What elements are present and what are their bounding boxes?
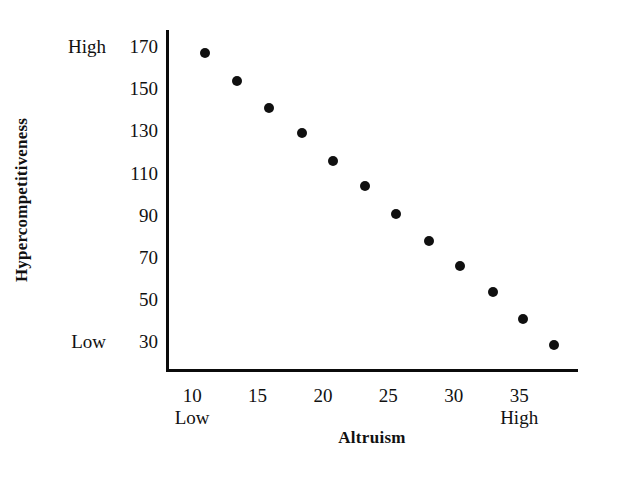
y-axis-anchor-label: Low bbox=[46, 332, 106, 351]
data-point bbox=[391, 209, 401, 219]
x-axis-tick-label: 20 bbox=[293, 386, 353, 406]
data-point bbox=[328, 156, 338, 166]
y-axis-tick-label: 70 bbox=[112, 248, 158, 267]
y-axis-line bbox=[166, 30, 169, 372]
x-axis-line bbox=[166, 369, 578, 372]
y-axis-tick-label: 110 bbox=[112, 164, 158, 183]
y-axis-title-text: Hypercompetitiveness bbox=[12, 118, 32, 282]
y-axis-tick-label: 170 bbox=[112, 37, 158, 56]
data-point bbox=[200, 48, 210, 58]
y-axis-tick-label: 90 bbox=[112, 206, 158, 225]
y-axis-tick-label: 130 bbox=[112, 121, 158, 140]
plot-area bbox=[166, 30, 578, 372]
x-axis-tick-label: 25 bbox=[358, 386, 418, 406]
x-axis-tick-label: 30 bbox=[424, 386, 484, 406]
y-axis-tick-label: 150 bbox=[112, 79, 158, 98]
x-axis-tick-label: 10 bbox=[162, 386, 222, 406]
x-axis-tick-label: 35 bbox=[489, 386, 549, 406]
data-point bbox=[297, 128, 307, 138]
data-point bbox=[455, 261, 465, 271]
data-point bbox=[549, 340, 559, 350]
x-axis-title: Altruism bbox=[166, 428, 578, 448]
y-axis-tick-label: 30 bbox=[112, 332, 158, 351]
y-axis-title: Hypercompetitiveness bbox=[0, 0, 44, 400]
y-axis-tick-labels: 30507090110130150170 bbox=[108, 30, 158, 372]
data-point bbox=[518, 314, 528, 324]
data-point bbox=[360, 181, 370, 191]
data-point bbox=[264, 103, 274, 113]
scatter-plot-figure: Hypercompetitiveness HighLow 30507090110… bbox=[0, 0, 619, 481]
x-axis-tick-label: 15 bbox=[228, 386, 288, 406]
data-point bbox=[232, 76, 242, 86]
y-axis-anchor-labels: HighLow bbox=[46, 30, 106, 372]
data-point bbox=[424, 236, 434, 246]
data-point bbox=[488, 287, 498, 297]
y-axis-anchor-label: High bbox=[46, 37, 106, 56]
x-axis-anchor-label: Low bbox=[152, 408, 232, 428]
y-axis-tick-label: 50 bbox=[112, 290, 158, 309]
x-axis-anchor-label: High bbox=[479, 408, 559, 428]
